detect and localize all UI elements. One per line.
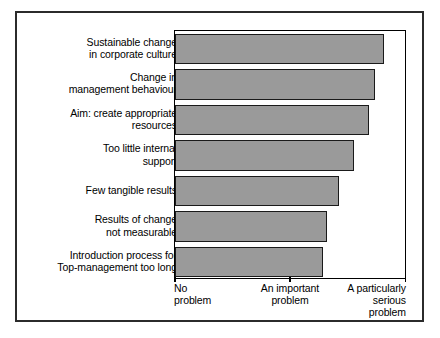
x-axis-tick-1	[289, 277, 291, 282]
bar-4	[175, 176, 339, 207]
x-axis-tick-label-1: An important problem	[226, 282, 354, 306]
plot-area	[174, 30, 406, 279]
x-axis-label-group: No problem An important problem A partic…	[174, 282, 406, 326]
category-label-5: Results of change not measurable	[95, 213, 177, 237]
x-axis-tick-label-2: A particularly serious problem	[347, 282, 406, 319]
bar-6	[175, 247, 323, 278]
bar-0	[175, 34, 384, 65]
category-label-3: Too little internal support	[103, 142, 177, 166]
bar-1	[175, 69, 375, 100]
category-label-2: Aim: create appropriate resources	[70, 107, 177, 131]
category-label-6: Introduction process for Top-management …	[57, 249, 177, 273]
x-axis-tick-label-0: No problem	[174, 282, 211, 306]
category-label-4: Few tangible results	[86, 184, 177, 196]
bar-5	[175, 211, 327, 242]
x-axis-tick-2	[405, 277, 407, 282]
bar-2	[175, 105, 369, 136]
bar-3	[175, 140, 354, 171]
category-label-0: Sustainable change in corporate culture	[87, 36, 177, 60]
category-label-1: Change in management behaviour	[69, 71, 177, 95]
chart-figure: Sustainable change in corporate cultureC…	[15, 11, 424, 322]
category-label-column: Sustainable change in corporate cultureC…	[44, 30, 184, 279]
x-axis-tick-0	[174, 277, 176, 282]
